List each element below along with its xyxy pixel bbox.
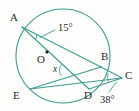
vertex-label-b: B xyxy=(101,51,108,62)
leader-line-15-degrees xyxy=(40,30,55,38)
geometry-figure: A B C D E O 15° x 38° xyxy=(0,0,139,111)
angle-arc-x xyxy=(59,64,62,76)
leader-line-38-degrees xyxy=(109,82,117,92)
angle-arc-at-a xyxy=(36,34,38,40)
vertex-label-c: C xyxy=(125,70,132,81)
center-point-marker xyxy=(46,51,49,54)
vertex-label-a: A xyxy=(10,12,18,23)
secant-b-to-c xyxy=(101,67,122,78)
chord-e-to-b xyxy=(30,67,101,89)
chord-a-to-d xyxy=(22,27,89,89)
angle-label-15-degrees: 15° xyxy=(58,23,73,34)
vertex-label-d: D xyxy=(84,90,92,101)
angle-label-38-degrees: 38° xyxy=(100,95,115,106)
angle-label-x: x xyxy=(53,65,57,75)
figure-canvas xyxy=(0,0,139,111)
center-label-o: O xyxy=(37,54,45,65)
vertex-label-e: E xyxy=(13,90,20,101)
angle-arc-at-c xyxy=(108,74,109,82)
